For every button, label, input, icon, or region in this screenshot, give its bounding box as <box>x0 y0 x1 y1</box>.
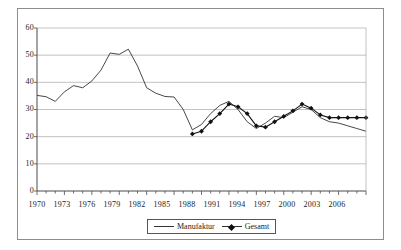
series-line-gesamt <box>192 104 366 134</box>
x-tick-label: 2006 <box>319 201 355 209</box>
diamond-marker-icon <box>228 223 235 230</box>
data-point-marker-gesamt <box>263 125 268 130</box>
y-tick-label: 50 <box>12 51 34 59</box>
y-tick-label: 0 <box>12 187 34 195</box>
legend-line-icon <box>154 226 174 227</box>
y-tick-label: 30 <box>12 105 34 113</box>
series-line-manufaktur <box>37 49 366 131</box>
y-tick-label: 10 <box>12 160 34 168</box>
data-point-marker-gesamt <box>354 115 359 120</box>
data-point-marker-gesamt <box>336 115 341 120</box>
legend-label: Gesamt <box>245 222 269 231</box>
line-chart-plot <box>0 0 401 250</box>
figure-container: 60 50 40 30 20 10 0 1970 1973 1976 1979 … <box>0 0 401 250</box>
data-point-marker-gesamt <box>345 115 350 120</box>
chart-legend: Manufaktur Gesamt <box>147 219 276 234</box>
y-tick-label: 60 <box>12 24 34 32</box>
legend-item-gesamt: Gesamt <box>222 222 269 231</box>
legend-line-diamond-icon <box>222 226 242 227</box>
data-point-marker-gesamt <box>327 115 332 120</box>
legend-item-manufaktur: Manufaktur <box>154 222 215 231</box>
y-tick-label: 40 <box>12 78 34 86</box>
data-point-marker-gesamt <box>190 132 195 137</box>
data-point-marker-gesamt <box>272 119 277 124</box>
y-tick-label: 20 <box>12 133 34 141</box>
data-point-marker-gesamt <box>281 114 286 119</box>
legend-label: Manufaktur <box>177 222 215 231</box>
